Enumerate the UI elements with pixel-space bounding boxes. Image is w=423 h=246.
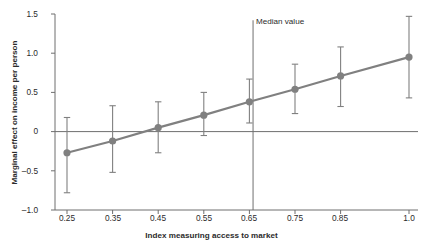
- data-point-marker[interactable]: [200, 112, 207, 119]
- data-point-marker[interactable]: [63, 149, 70, 156]
- data-point-marker[interactable]: [291, 86, 298, 93]
- data-point-marker[interactable]: [337, 72, 344, 79]
- data-point-marker[interactable]: [155, 124, 162, 131]
- chart-container: Marginal effect on income per person Ind…: [0, 0, 423, 246]
- data-point-marker[interactable]: [246, 98, 253, 105]
- data-point-marker[interactable]: [109, 137, 116, 144]
- data-point-marker[interactable]: [405, 54, 412, 61]
- series-line: [67, 57, 409, 153]
- plot-area: [0, 0, 423, 246]
